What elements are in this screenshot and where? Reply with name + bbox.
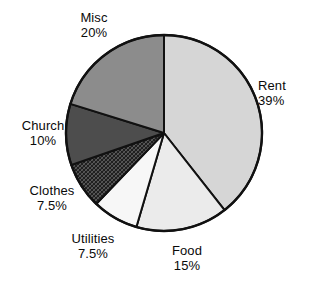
pie-label-rent: Rent 39% xyxy=(258,78,312,108)
pie-label-church: Church 10% xyxy=(8,118,78,148)
pie-label-church-value: 10% xyxy=(8,133,78,148)
pie-label-misc: Misc 20% xyxy=(62,10,126,40)
pie-label-utilities: Utilities 7.5% xyxy=(54,231,132,261)
pie-label-clothes-value: 7.5% xyxy=(16,198,88,213)
pie-label-utilities-name: Utilities xyxy=(54,231,132,246)
pie-label-clothes-name: Clothes xyxy=(16,183,88,198)
pie-label-utilities-value: 7.5% xyxy=(54,246,132,261)
pie-label-rent-name: Rent xyxy=(258,78,312,93)
pie-label-rent-value: 39% xyxy=(258,93,312,108)
pie-label-food-value: 15% xyxy=(156,258,218,273)
pie-label-misc-name: Misc xyxy=(62,10,126,25)
pie-label-misc-value: 20% xyxy=(62,25,126,40)
pie-label-church-name: Church xyxy=(8,118,78,133)
pie-label-food: Food 15% xyxy=(156,243,218,273)
pie-label-clothes: Clothes 7.5% xyxy=(16,183,88,213)
pie-chart: Misc 20% Rent 39% Church 10% Clothes 7.5… xyxy=(0,0,313,294)
pie-label-food-name: Food xyxy=(156,243,218,258)
